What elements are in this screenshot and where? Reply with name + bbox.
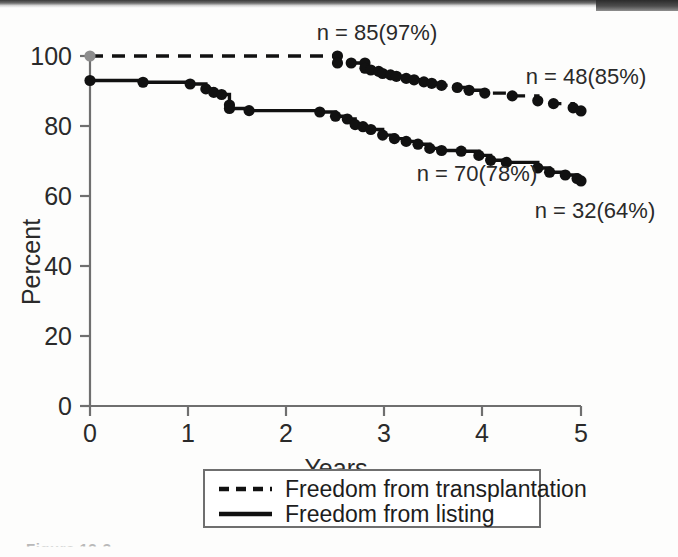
legend-label-listing: Freedom from listing — [285, 501, 495, 527]
annotation-transplant-85: n = 85(97%) — [317, 20, 437, 45]
censor-marker — [463, 85, 474, 96]
censor-marker — [330, 111, 341, 122]
censor-marker — [507, 90, 518, 101]
annotation-listing-70: n = 70(78%) — [417, 161, 537, 186]
annotation-listing-32: n = 32(64%) — [535, 198, 655, 223]
censor-marker — [216, 89, 227, 100]
y-tick-label-20: 20 — [44, 322, 72, 350]
censor-marker — [575, 105, 586, 116]
y-axis-title: Percent — [17, 219, 45, 305]
censor-marker — [412, 139, 423, 150]
y-tick-label-60: 60 — [44, 182, 72, 210]
censor-marker — [532, 95, 543, 106]
x-tick-label-2: 2 — [279, 419, 293, 447]
censor-marker — [377, 130, 388, 141]
censor-marker — [314, 106, 325, 117]
censor-marker — [401, 136, 412, 147]
censor-marker — [365, 124, 376, 135]
censor-marker — [408, 74, 419, 85]
censor-marker — [560, 169, 571, 180]
x-tick-label-4: 4 — [475, 419, 489, 447]
x-axis-ticks — [90, 406, 581, 416]
y-tick-label-100: 100 — [30, 42, 72, 70]
censor-marker — [346, 57, 357, 68]
censor-marker — [473, 150, 484, 161]
censor-marker — [185, 78, 196, 89]
annotation-transplant-48: n = 48(85%) — [526, 64, 646, 89]
x-tick-label-0: 0 — [83, 419, 97, 447]
y-tick-label-80: 80 — [44, 112, 72, 140]
x-tick-label-3: 3 — [377, 419, 391, 447]
censor-marker — [137, 77, 148, 88]
chart-svg: 100 80 60 40 20 0 0 1 2 3 4 5 Percent Ye… — [0, 0, 678, 557]
y-tick-label-0: 0 — [58, 392, 72, 420]
censor-marker — [424, 143, 435, 154]
censor-marker — [332, 57, 343, 68]
x-tick-label-1: 1 — [181, 419, 195, 447]
censor-marker — [544, 167, 555, 178]
censor-marker — [456, 146, 467, 157]
start-marker — [84, 50, 95, 61]
y-axis-ticks — [80, 56, 90, 406]
legend-label-transplantation: Freedom from transplantation — [285, 476, 587, 502]
censor-marker — [391, 71, 402, 82]
censor-marker — [548, 98, 559, 109]
y-tick-label-40: 40 — [44, 252, 72, 280]
censor-marker — [389, 133, 400, 144]
censor-marker — [575, 175, 586, 186]
legend: Freedom from transplantation Freedom fro… — [204, 470, 587, 527]
censor-marker — [243, 105, 254, 116]
censor-marker — [224, 103, 235, 114]
kaplan-meier-figure: 100 80 60 40 20 0 0 1 2 3 4 5 Percent Ye… — [0, 0, 678, 557]
censor-marker — [452, 82, 463, 93]
censor-marker — [426, 78, 437, 89]
censor-marker — [84, 75, 95, 86]
censor-marker — [479, 88, 490, 99]
censor-marker — [436, 145, 447, 156]
x-tick-label-5: 5 — [574, 419, 588, 447]
censor-marker — [436, 80, 447, 91]
